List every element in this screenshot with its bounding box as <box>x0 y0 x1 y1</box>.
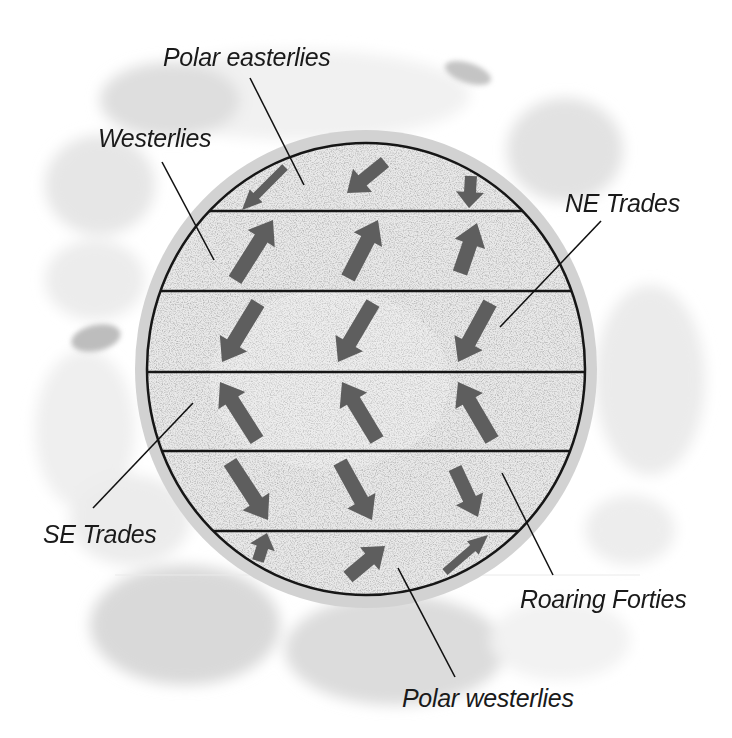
label-polar-easterlies: Polar easterlies <box>163 45 331 70</box>
label-westerlies: Westerlies <box>98 126 211 151</box>
diagram-canvas <box>0 0 732 738</box>
label-se-trades: SE Trades <box>43 522 157 547</box>
label-roaring-forties: Roaring Forties <box>520 587 686 612</box>
label-ne-trades: NE Trades <box>565 191 680 216</box>
wind-belts-diagram: Polar easterlies Westerlies NE Trades SE… <box>0 0 732 738</box>
label-polar-westerlies: Polar westerlies <box>402 686 574 711</box>
